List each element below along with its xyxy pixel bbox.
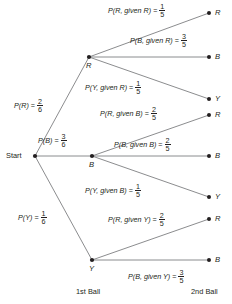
label-P-B-denominator: 6: [61, 140, 67, 149]
label-P-B-given-Y-fraction: 3 5: [178, 269, 184, 285]
endpoint-letter-B-from-Y: B: [215, 256, 220, 264]
endpoint-letter-Y-from-B: Y: [215, 193, 220, 201]
label-P-R-given-R-lhs: P(R, given R): [108, 7, 151, 14]
label-P-R-denominator: 6: [37, 105, 43, 114]
label-P-Y-numerator: 1: [41, 210, 47, 218]
label-P-B-given-Y: P(B, given Y) = 3 5: [128, 269, 184, 285]
probability-tree-diagram: Start R B Y P(R) = 2 6 P(B) = 3 6 P(Y) =: [0, 0, 232, 304]
label-P-R-given-Y-denominator: 5: [159, 219, 165, 228]
label-P-B-given-R-lhs: P(B, given R): [130, 37, 173, 44]
node-second-Y-from-B: [207, 195, 211, 199]
label-P-Y-lhs: P(Y): [18, 214, 32, 221]
label-P-Y-given-R-numerator: 1: [135, 80, 141, 88]
endpoint-letter-R-from-Y: R: [215, 215, 220, 223]
label-P-R-given-Y-eq: =: [153, 216, 157, 223]
endpoint-letter-B-from-B: B: [215, 152, 220, 160]
axis-label-second-ball: 2nd Ball: [191, 288, 218, 295]
node-second-B-from-R: [207, 55, 211, 59]
label-P-R-given-B: P(R, given B) = 2 5: [100, 106, 157, 122]
label-P-B-given-B-lhs: P(B, given B): [114, 141, 156, 148]
label-P-R-eq: =: [31, 102, 35, 109]
label-P-B-given-B: P(B, given B) = 2 5: [114, 137, 171, 153]
endpoint-letter-B-from-R: B: [215, 53, 220, 61]
label-P-B-given-Y-eq: =: [172, 273, 176, 280]
label-P-R-given-R-numerator: 1: [159, 3, 165, 11]
label-P-Y-given-R-eq: =: [129, 84, 133, 91]
start-label: Start: [6, 152, 22, 159]
node-letter-first-Y: Y: [89, 265, 94, 273]
label-P-R: P(R) = 2 6: [14, 98, 43, 114]
label-P-Y-given-B-fraction: 1 5: [135, 183, 141, 199]
label-P-B-given-R-fraction: 3 5: [181, 33, 187, 49]
label-P-R-given-Y-lhs: P(R, given Y): [108, 216, 151, 223]
label-P-B-given-B-numerator: 2: [165, 137, 171, 145]
label-P-R-given-B-lhs: P(R, given B): [100, 110, 143, 117]
label-P-B-given-B-eq: =: [158, 141, 162, 148]
axis-label-first-ball: 1st Ball: [76, 288, 100, 295]
label-P-B-given-B-denominator: 5: [165, 144, 171, 153]
label-P-B-given-R-denominator: 5: [181, 40, 187, 49]
node-second-R-from-B: [207, 113, 211, 117]
label-P-R-numerator: 2: [37, 98, 43, 106]
node-letter-first-R: R: [86, 62, 91, 70]
label-P-R-given-R-eq: =: [153, 7, 157, 14]
label-P-B-given-R: P(B, given R) = 3 5: [130, 33, 187, 49]
label-P-R-given-Y-numerator: 2: [159, 212, 165, 220]
label-P-R-fraction: 2 6: [37, 98, 43, 114]
node-second-R-from-Y: [207, 217, 211, 221]
label-P-B: P(B) = 3 6: [38, 133, 67, 149]
label-P-Y-given-R-denominator: 5: [135, 87, 141, 96]
label-P-Y-denominator: 6: [41, 217, 47, 226]
endpoint-letter-Y-from-R: Y: [215, 95, 220, 103]
label-P-R-given-R: P(R, given R) = 1 5: [108, 3, 165, 19]
label-P-Y-given-B-denominator: 5: [135, 190, 141, 199]
label-P-Y-fraction: 1 6: [41, 210, 47, 226]
label-P-B-given-Y-numerator: 3: [178, 269, 184, 277]
label-P-R-given-R-fraction: 1 5: [159, 3, 165, 19]
label-P-B-lhs: P(B): [38, 137, 52, 144]
node-second-B-from-Y: [207, 258, 211, 262]
label-P-R-given-B-denominator: 5: [151, 113, 157, 122]
label-P-R-given-R-denominator: 5: [159, 10, 165, 19]
node-second-B-from-B: [207, 154, 211, 158]
label-P-Y-given-R-lhs: P(Y, given R): [85, 84, 127, 91]
label-P-R-given-B-fraction: 2 5: [151, 106, 157, 122]
endpoint-letter-R-from-R: R: [215, 9, 220, 17]
label-P-Y-given-R-fraction: 1 5: [135, 80, 141, 96]
label-P-Y-given-B: P(Y, given B) = 1 5: [85, 183, 141, 199]
label-P-B-fraction: 3 6: [61, 133, 67, 149]
label-P-B-given-Y-lhs: P(B, given Y): [128, 273, 170, 280]
node-second-R-from-R: [207, 11, 211, 15]
label-P-Y: P(Y) = 1 6: [18, 210, 47, 226]
node-first-B: [90, 154, 94, 158]
label-P-B-eq: =: [54, 137, 58, 144]
node-second-Y-from-R: [207, 97, 211, 101]
label-P-Y-given-R: P(Y, given R) = 1 5: [85, 80, 141, 96]
label-P-Y-given-B-numerator: 1: [135, 183, 141, 191]
label-P-R-lhs: P(R): [14, 102, 29, 109]
node-first-R: [87, 55, 91, 59]
label-P-R-given-Y-fraction: 2 5: [159, 212, 165, 228]
label-P-R-given-B-numerator: 2: [151, 106, 157, 114]
label-P-Y-given-B-lhs: P(Y, given B): [85, 187, 127, 194]
endpoint-letter-R-from-B: R: [215, 111, 220, 119]
node-letter-first-B: B: [89, 161, 94, 169]
label-P-B-given-B-fraction: 2 5: [165, 137, 171, 153]
node-first-Y: [90, 258, 94, 262]
label-P-B-given-Y-denominator: 5: [178, 276, 184, 285]
label-P-B-given-R-numerator: 3: [181, 33, 187, 41]
branch-start-to-Y: [35, 156, 92, 260]
label-P-Y-eq: =: [34, 214, 38, 221]
label-P-R-given-B-eq: =: [145, 110, 149, 117]
label-P-B-given-R-eq: =: [175, 37, 179, 44]
label-P-R-given-Y: P(R, given Y) = 2 5: [108, 212, 165, 228]
label-P-B-numerator: 3: [61, 133, 67, 141]
node-start: [33, 154, 37, 158]
label-P-Y-given-B-eq: =: [129, 187, 133, 194]
